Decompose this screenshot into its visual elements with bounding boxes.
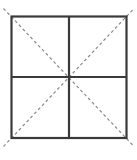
quartered-square-figure — [0, 0, 137, 160]
diagram-canvas — [0, 0, 137, 160]
